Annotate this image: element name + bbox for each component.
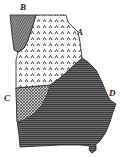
region-map bbox=[0, 0, 130, 157]
label-a: A bbox=[77, 28, 83, 37]
label-d: D bbox=[109, 89, 116, 98]
label-b: B bbox=[20, 3, 26, 12]
label-c: C bbox=[4, 94, 10, 103]
